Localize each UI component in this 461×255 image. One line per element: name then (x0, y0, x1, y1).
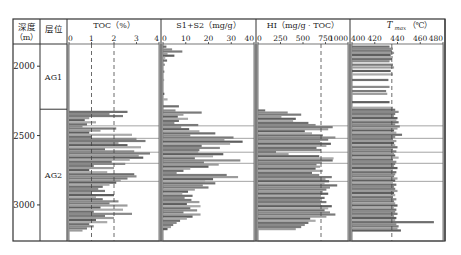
data-bar (163, 226, 171, 228)
data-bar (352, 79, 388, 81)
data-bar (258, 161, 322, 163)
data-bar (69, 217, 114, 219)
data-bar (163, 143, 230, 145)
data-bar (69, 223, 89, 225)
x-tick-label: 1 (89, 34, 94, 43)
data-bar (352, 207, 394, 209)
data-bar (352, 64, 393, 66)
x-tick-label: 400 (351, 34, 366, 43)
data-bar (69, 229, 83, 231)
track-title-sub: max (395, 25, 407, 31)
data-bar (69, 196, 96, 198)
track-title-hi: HI（mg/g · TOC） (267, 21, 339, 30)
data-bar (163, 126, 181, 128)
data-bar (352, 177, 398, 179)
data-bar (258, 222, 308, 224)
data-bar (163, 209, 197, 211)
data-bar (258, 199, 320, 201)
data-bar (163, 55, 174, 57)
data-bar (258, 141, 320, 143)
data-bar (163, 134, 190, 136)
data-bar (352, 127, 398, 129)
data-bar (352, 152, 394, 154)
data-bar (69, 163, 125, 165)
x-tick-label: 2 (112, 34, 117, 43)
data-bar (258, 188, 326, 190)
data-bar (163, 161, 204, 163)
data-bar (69, 132, 89, 134)
data-bar (258, 184, 337, 186)
data-bar (163, 46, 166, 48)
x-tick-label: 0 (162, 34, 167, 43)
data-bar (352, 148, 393, 150)
x-tick-label: 420 (368, 34, 383, 43)
data-bar (352, 165, 394, 167)
data-bar (352, 60, 390, 62)
data-bar (163, 193, 182, 195)
data-bar (163, 197, 185, 199)
data-bar (69, 140, 146, 142)
data-bar (258, 128, 328, 130)
x-tick-label: 1000 (329, 34, 348, 43)
data-bar (163, 216, 193, 218)
data-bar (163, 93, 164, 95)
layer-column-label: 层位 (45, 24, 63, 34)
data-bar (163, 213, 201, 215)
data-bar (69, 221, 107, 223)
data-bar (352, 111, 399, 113)
x-tick-label: 0 (68, 34, 73, 43)
data-bar (69, 113, 110, 115)
data-bar (163, 199, 191, 201)
data-bar (163, 224, 173, 226)
data-bar (258, 122, 308, 124)
data-bar (258, 118, 296, 120)
data-bar (69, 192, 92, 194)
well-log-svg: 深度（m）200025003000层位AG1AG2TOC（%）01234S1+S… (0, 0, 461, 255)
data-bar (163, 174, 227, 176)
data-bar (69, 152, 150, 154)
data-bar (163, 147, 220, 149)
data-bar (352, 196, 393, 198)
data-bar (352, 188, 395, 190)
data-bar (352, 161, 396, 163)
data-bar (69, 200, 119, 202)
data-bar (352, 109, 395, 111)
data-bar (163, 180, 205, 182)
data-bar (352, 209, 396, 211)
data-bar (352, 70, 391, 72)
data-bar (352, 179, 395, 181)
data-bar (258, 159, 333, 161)
data-bar (352, 90, 386, 92)
data-bar (352, 140, 396, 142)
data-bar (69, 121, 96, 123)
data-bar (258, 216, 326, 218)
data-bar (352, 115, 394, 117)
x-tick-label: 460 (413, 34, 428, 43)
data-bar (69, 165, 94, 167)
data-bar (258, 226, 301, 228)
layer-label-ag2: AG2 (44, 171, 62, 180)
data-bar (69, 207, 101, 209)
data-bar (163, 191, 188, 193)
data-bar (352, 229, 401, 231)
data-bar (163, 163, 219, 165)
data-bar (69, 213, 132, 215)
data-bar (69, 204, 128, 206)
data-bar (69, 177, 128, 179)
data-bar (163, 109, 176, 111)
data-bar (163, 50, 182, 52)
data-bar (69, 119, 85, 121)
data-bar (258, 172, 312, 174)
data-bar (352, 119, 396, 121)
data-bar (352, 150, 396, 152)
data-bar (163, 228, 168, 230)
data-bar (258, 224, 305, 226)
data-bar (352, 171, 396, 173)
data-bar (352, 54, 391, 56)
data-bar (69, 209, 123, 211)
data-bar (352, 186, 394, 188)
data-bar (69, 202, 110, 204)
track-title-tmax: T (387, 20, 394, 30)
data-bar (258, 168, 316, 170)
data-bar (69, 211, 94, 213)
